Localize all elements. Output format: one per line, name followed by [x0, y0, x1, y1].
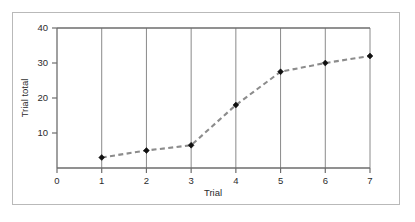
x-tick-label: 6 [323, 175, 328, 186]
x-tick-label: 3 [188, 175, 193, 186]
y-tick-label: 40 [37, 22, 48, 33]
x-tick-label: 4 [233, 175, 238, 186]
x-tick-label: 7 [367, 175, 372, 186]
y-tick-label: 20 [37, 92, 48, 103]
x-tick-label: 2 [144, 175, 149, 186]
figure: 40302010 01234567 Trial Trial total [0, 0, 415, 222]
data-point-marker [322, 60, 328, 66]
x-tick-label: 5 [278, 175, 283, 186]
y-axis-title: Trial total [19, 79, 30, 118]
data-point-marker [144, 148, 150, 154]
data-point-marker [367, 53, 373, 59]
data-point-marker [99, 155, 105, 161]
line-chart: 40302010 01234567 Trial Trial total [0, 0, 415, 222]
y-tick-label: 10 [37, 127, 48, 138]
x-tick-label: 1 [99, 175, 104, 186]
y-tick-label: 30 [37, 57, 48, 68]
x-tick-label: 0 [54, 175, 59, 186]
gridlines [102, 28, 370, 168]
y-axis-ticks: 40302010 [37, 22, 57, 138]
x-axis-title: Trial [204, 187, 222, 198]
x-axis-ticks: 01234567 [54, 168, 372, 186]
